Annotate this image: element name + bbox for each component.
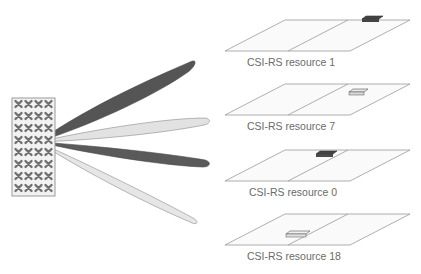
antenna-panel — [12, 98, 55, 196]
csi-rs-block-18 — [286, 231, 310, 234]
resource-label-7: CSI-RS resource 7 — [247, 120, 335, 132]
resource-label-1: CSI-RS resource 1 — [247, 56, 335, 68]
resource-label-0: CSI-RS resource 0 — [249, 186, 337, 198]
resource-label-18: CSI-RS resource 18 — [247, 250, 341, 262]
resource-grid-18 — [225, 214, 410, 245]
resource-grid-0 — [225, 150, 410, 181]
resource-grid-7 — [225, 84, 410, 115]
csi-rs-block-0 — [316, 151, 337, 154]
resource-grid-1 — [225, 16, 410, 51]
csi-rs-block-1 — [362, 16, 383, 19]
beams — [38, 61, 209, 224]
beam-diagram — [0, 0, 421, 274]
